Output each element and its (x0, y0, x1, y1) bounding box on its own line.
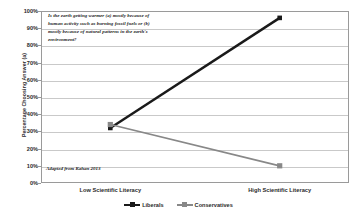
x-axis-tick-labels: Low Scientific LiteracyHigh Scientific L… (41, 187, 349, 199)
y-axis-tickmark (37, 131, 41, 132)
y-axis-tickmark (37, 97, 41, 98)
legend-label: Conservatives (195, 202, 233, 208)
legend-item-liberals[interactable]: Liberals (124, 201, 163, 208)
y-axis-tickmark (37, 80, 41, 81)
y-axis-tick: 60% (8, 77, 38, 83)
y-axis-tick: 90% (8, 25, 38, 31)
y-axis-tick-labels: 0%10%20%30%40%50%60%70%80%90%100% (8, 0, 38, 216)
data-point-conservatives-0 (108, 122, 113, 127)
y-axis-tickmark (37, 63, 41, 64)
chart-data-layer (41, 11, 349, 183)
chart-figure: Percentage Choosing Answer (a) 0%10%20%3… (0, 0, 357, 216)
x-axis-tick: High Scientific Literacy (248, 187, 311, 193)
y-axis-tick: 100% (8, 8, 38, 14)
chart-legend: LiberalsConservatives (0, 201, 357, 208)
x-axis-tick: Low Scientific Literacy (79, 187, 141, 193)
y-axis-tickmark (37, 114, 41, 115)
y-axis-tick: 10% (8, 163, 38, 169)
series-line-liberals (110, 18, 279, 128)
legend-item-conservatives[interactable]: Conservatives (177, 201, 233, 208)
data-point-conservatives-1 (277, 163, 282, 168)
y-axis-tick: 20% (8, 146, 38, 152)
y-axis-tickmark (37, 28, 41, 29)
y-axis-tick: 70% (8, 60, 38, 66)
y-axis-tick: 0% (8, 180, 38, 186)
data-point-liberals-1 (277, 16, 282, 21)
y-axis-tickmark (37, 149, 41, 150)
legend-label: Liberals (142, 202, 163, 208)
series-line-conservatives (110, 125, 279, 166)
y-axis-tick: 40% (8, 111, 38, 117)
y-axis-tick: 80% (8, 42, 38, 48)
y-axis-tickmark (37, 183, 41, 184)
y-axis-tick: 50% (8, 94, 38, 100)
y-axis-tickmark (37, 45, 41, 46)
y-axis-tick: 30% (8, 128, 38, 134)
legend-swatch-icon (124, 201, 140, 208)
legend-swatch-icon (177, 201, 193, 208)
y-axis-tickmark (37, 11, 41, 12)
y-axis-tickmark (37, 166, 41, 167)
